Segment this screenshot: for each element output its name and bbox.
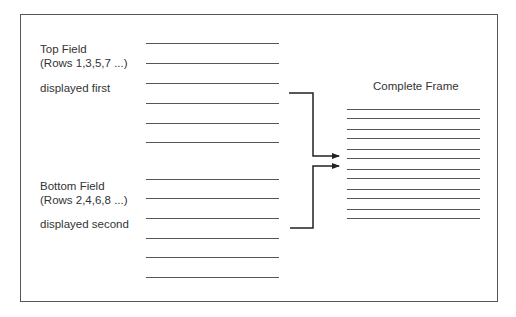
- merge-connectors: [0, 0, 516, 317]
- top-field-arrow: [289, 93, 339, 156]
- bottom-field-arrow: [290, 166, 339, 228]
